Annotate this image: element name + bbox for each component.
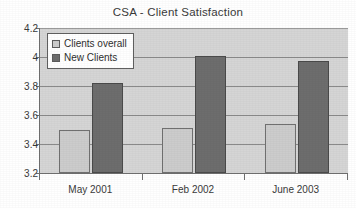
x-axis-line (40, 173, 348, 174)
x-axis-label: Feb 2002 (172, 184, 214, 195)
bar-1-0 (92, 83, 123, 173)
bar-1-1 (195, 56, 226, 173)
bar-0-1 (162, 128, 193, 173)
x-axis-tick (142, 173, 143, 180)
x-axis-tick (347, 173, 348, 180)
y-axis-label: 4.2 (4, 23, 38, 34)
y-axis-label: 4 (4, 52, 38, 63)
legend-swatch-new-clients (52, 54, 60, 62)
x-axis-tick (244, 173, 245, 180)
legend-item-new-clients: New Clients (52, 51, 127, 65)
gridline (40, 28, 348, 29)
bar-0-2 (265, 124, 296, 173)
y-axis-label: 3.8 (4, 81, 38, 92)
y-axis-label: 3.2 (4, 168, 38, 179)
x-axis-label: June 2003 (272, 184, 319, 195)
y-axis-label: 3.4 (4, 139, 38, 150)
chart-container: CSA - Client Satisfaction Clients overal… (0, 0, 356, 208)
legend-label-clients-overall: Clients overall (64, 38, 127, 50)
bar-1-2 (298, 61, 329, 173)
chart-title: CSA - Client Satisfaction (0, 6, 356, 18)
x-axis-label: May 2001 (68, 184, 112, 195)
x-axis-tick (39, 173, 40, 180)
chart-legend: Clients overall New Clients (47, 33, 134, 69)
legend-item-clients-overall: Clients overall (52, 37, 127, 51)
legend-label-new-clients: New Clients (64, 52, 117, 64)
legend-swatch-clients-overall (52, 40, 60, 48)
bar-0-0 (59, 130, 90, 174)
y-axis-label: 3.6 (4, 110, 38, 121)
